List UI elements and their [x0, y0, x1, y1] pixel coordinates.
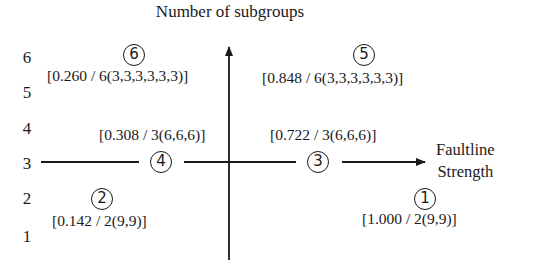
point-3-circle: 3 — [307, 151, 329, 173]
point-5-label: [0.848 / 6(3,3,3,3,3,3)] — [262, 70, 403, 86]
point-2-circle: 2 — [91, 188, 113, 210]
point-1-label: [1.000 / 2(9,9)] — [362, 211, 457, 227]
point-1-circle: 1 — [414, 188, 436, 210]
point-4-circle: 4 — [150, 151, 172, 173]
point-6-label: [0.260 / 6(3,3,3,3,3,3)] — [47, 68, 188, 84]
point-4-label: [0.308 / 3(6,6,6)] — [99, 127, 205, 143]
point-6-circle: 6 — [123, 44, 145, 66]
point-2-label: [0.142 / 2(9,9)] — [52, 213, 147, 229]
point-3-label: [0.722 / 3(6,6,6)] — [270, 127, 376, 143]
x-axis-label: Faultline Strength — [436, 139, 495, 183]
point-5-circle: 5 — [353, 44, 375, 66]
